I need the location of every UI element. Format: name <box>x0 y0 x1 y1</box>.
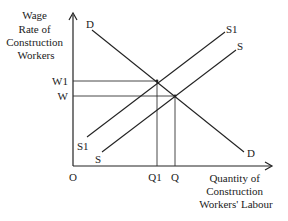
y-axis <box>69 13 77 166</box>
x-axis <box>73 162 272 170</box>
quantity-label-q1: Q1 <box>148 171 161 183</box>
s-label-end: S <box>237 40 243 52</box>
x-axis-title-line-3: Workers' Labour <box>199 198 273 210</box>
supply-demand-diagram: Wage Rate of Construction Workers Quanti… <box>0 0 288 221</box>
s-label-start: S <box>95 153 101 165</box>
y-axis-title-line-4: Workers <box>18 49 55 61</box>
y-axis-title-line-2: Rate of <box>19 23 51 35</box>
origin-label: O <box>69 171 77 183</box>
wage-label-w: W <box>58 90 69 102</box>
x-axis-title: Quantity of Construction Workers' Labour <box>199 172 273 210</box>
x-axis-title-line-2: Construction <box>206 185 263 197</box>
demand-curve-d: D D <box>86 18 255 159</box>
y-axis-title: Wage Rate of Construction Workers <box>6 9 66 61</box>
quantity-label-q: Q <box>171 171 179 183</box>
demand-label-end: D <box>247 147 255 159</box>
guide-lines <box>73 81 175 166</box>
equilibrium-point-w1-q1 <box>156 80 159 83</box>
s1-label-end: S1 <box>226 23 238 35</box>
supply-curve-s: S S <box>95 40 243 165</box>
y-axis-title-line-3: Construction <box>6 36 63 48</box>
demand-label-start: D <box>86 18 94 30</box>
s1-label-start: S1 <box>77 140 89 152</box>
y-axis-title-line-1: Wage <box>22 9 47 21</box>
equilibrium-point-w-q <box>174 95 177 98</box>
x-axis-title-line-1: Quantity of <box>209 172 260 184</box>
wage-label-w1: W1 <box>52 75 68 87</box>
